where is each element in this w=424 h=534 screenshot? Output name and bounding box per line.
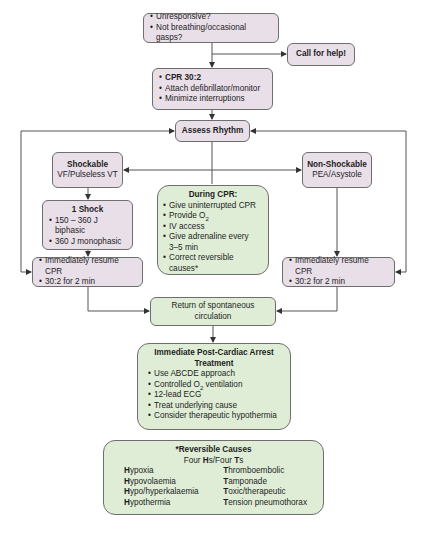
- hs-column: Hypoxia Hypovolaemia Hypo/hyperkalaemia …: [124, 466, 199, 508]
- post-arrest-box: Immediate Post-Cardiac Arrest Treatment …: [137, 343, 291, 430]
- shock-box: 1 Shock 150 – 360 J biphasic 360 J monop…: [42, 200, 133, 250]
- post-arrest-title: Immediate Post-Cardiac Arrest Treatment: [148, 348, 280, 369]
- rosc-label: Return of spontaneous circulation: [161, 301, 265, 322]
- during-cpr-box: During CPR: Give uninterrupted CPR Provi…: [157, 185, 269, 275]
- shock-monophasic: 360 J monophasic: [49, 237, 126, 248]
- cause-h: Hypothermia: [124, 498, 199, 509]
- correct-causes: Correct reversible causes*: [163, 253, 263, 274]
- resume-cpr-right-box: Immediately resume CPR 30:2 for 2 min: [282, 257, 395, 287]
- reversible-subtitle: Four Hs/Four Ts: [110, 456, 317, 467]
- treat-cause: Treat underlying cause: [148, 401, 280, 412]
- cpr-duration: 30:2 for 2 min: [39, 277, 136, 288]
- cpr-duration: 30:2 for 2 min: [289, 277, 388, 288]
- non-shockable-box: Non-Shockable PEA/Asystole: [302, 152, 372, 188]
- iv-access: IV access: [163, 222, 263, 233]
- cause-h: Hypo/hyperkalaemia: [124, 487, 199, 498]
- shockable-title: Shockable: [53, 160, 122, 171]
- call-for-help-label: Call for help!: [288, 49, 354, 60]
- resume-cpr: Immediately resume CPR: [289, 256, 388, 277]
- cause-t: Toxic/therapeutic: [223, 487, 307, 498]
- uninterrupted-cpr: Give uninterrupted CPR: [163, 201, 263, 212]
- provide-oxygen: Provide O2: [163, 211, 263, 222]
- cause-h: Hypovolaemia: [124, 477, 199, 488]
- reversible-causes-box: *Reversible Causes Four Hs/Four Ts Hypox…: [103, 440, 324, 515]
- check-unresponsive: Unresponsive?: [150, 12, 272, 23]
- resume-cpr: Immediately resume CPR: [39, 256, 136, 277]
- during-cpr-title: During CPR:: [163, 190, 263, 201]
- cause-t: Tension pneumothorax: [223, 498, 307, 509]
- adrenaline: Give adrenaline every: [163, 232, 263, 243]
- non-shockable-subtitle: PEA/Asystole: [303, 170, 371, 181]
- call-for-help-box: Call for help!: [287, 43, 355, 66]
- cpr-box: CPR 30:2 Attach defibrillator/monitor Mi…: [152, 68, 273, 110]
- shockable-box: Shockable VF/Pulseless VT: [52, 152, 123, 188]
- non-shockable-title: Non-Shockable: [303, 160, 371, 171]
- shock-biphasic: 150 – 360 J biphasic: [49, 216, 126, 237]
- abcde: Use ABCDE approach: [148, 369, 280, 380]
- reversible-title: *Reversible Causes: [110, 445, 317, 456]
- attach-defib: Attach defibrillator/monitor: [159, 84, 260, 95]
- initial-assessment-box: Unresponsive? Not breathing/occasional g…: [143, 13, 279, 43]
- resume-cpr-left-box: Immediately resume CPR 30:2 for 2 min: [32, 257, 143, 287]
- cause-h: Hypoxia: [124, 466, 199, 477]
- controlled-oxygen: Controlled O2 ventilation: [148, 380, 280, 391]
- minimize-interruptions: Minimize interruptions: [159, 94, 260, 105]
- check-breathing: Not breathing/occasional gasps?: [150, 23, 272, 44]
- adrenaline-interval: 3–5 min: [163, 243, 263, 254]
- shock-title: 1 Shock: [49, 205, 126, 216]
- cause-t: Thromboembolic: [223, 466, 307, 477]
- hypothermia: Consider therapeutic hypothermia: [148, 411, 280, 422]
- ts-column: Thromboembolic Tamponade Toxic/therapeut…: [223, 466, 307, 508]
- ecg: 12-lead ECG: [148, 390, 280, 401]
- shockable-subtitle: VF/Pulseless VT: [53, 170, 122, 181]
- assess-rhythm-label: Assess Rhythm: [176, 126, 249, 137]
- cause-t: Tamponade: [223, 477, 307, 488]
- assess-rhythm-box: Assess Rhythm: [175, 120, 250, 142]
- rosc-box: Return of spontaneous circulation: [150, 297, 276, 326]
- cpr-ratio: CPR 30:2: [159, 73, 260, 84]
